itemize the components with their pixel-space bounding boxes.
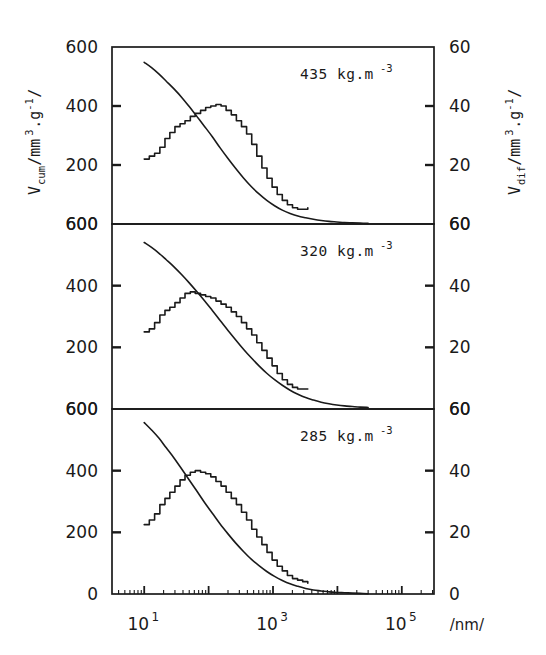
differential-curve: [144, 292, 308, 389]
differential-curve: [144, 471, 308, 584]
cumulative-curve: [144, 243, 368, 408]
left-tick-label: 600: [66, 37, 98, 57]
right-tick-label: 20: [449, 155, 471, 175]
right-tick-label: 60: [449, 37, 471, 57]
left-tick-label: 400: [66, 276, 98, 296]
panel-frame: [112, 409, 434, 594]
right-axis-title: Vdif/mm3.g-1/: [503, 89, 527, 195]
right-tick-label: 60: [449, 399, 471, 419]
right-tick-label: 0: [449, 584, 460, 604]
left-tick-label: 400: [66, 461, 98, 481]
cumulative-curve: [144, 62, 368, 223]
density-annotation: 285 kg.m: [300, 428, 374, 444]
svg-text:/mm: /mm: [506, 139, 524, 166]
left-tick-label: 200: [66, 522, 98, 542]
density-annotation: 320 kg.m: [300, 243, 374, 259]
right-tick-label: 60: [449, 214, 471, 234]
right-tick-label: 40: [449, 461, 471, 481]
left-tick-label: 200: [66, 337, 98, 357]
left-tick-label: 600: [66, 399, 98, 419]
right-tick-label: 20: [449, 337, 471, 357]
x-tick-label: 10: [127, 614, 149, 634]
svg-text:dif: dif: [515, 166, 527, 185]
x-tick-exponent: 3: [280, 610, 288, 624]
density-annotation-exponent: -3: [380, 239, 393, 251]
density-annotation: 435 kg.m: [300, 66, 374, 82]
panel-285: [112, 409, 434, 594]
svg-text:.g: .g: [26, 111, 44, 129]
porosimetry-chart: 60040020060060402060435 kg.m-36004002006…: [0, 0, 546, 655]
density-annotation-exponent: -3: [380, 424, 393, 436]
right-tick-label: 40: [449, 96, 471, 116]
left-tick-label: 200: [66, 155, 98, 175]
x-tick-label: 10: [385, 614, 407, 634]
svg-text:-1: -1: [23, 98, 35, 111]
svg-text:/mm: /mm: [26, 139, 44, 166]
figure-root: 60040020060060402060435 kg.m-36004002006…: [0, 0, 546, 655]
x-axis-ticks: [119, 586, 433, 594]
left-tick-label: 600: [66, 214, 98, 234]
left-axis-title: Vcum/mm3.g-1/: [23, 89, 47, 195]
svg-text:3: 3: [23, 129, 35, 135]
x-axis-unit-label: /nm/: [450, 616, 485, 634]
svg-text:V: V: [506, 186, 524, 195]
svg-text:cum: cum: [35, 166, 47, 185]
left-tick-label: 0: [87, 584, 98, 604]
left-tick-label: 400: [66, 96, 98, 116]
svg-text:V: V: [26, 186, 44, 195]
svg-text:/: /: [506, 89, 524, 98]
x-tick-label: 10: [256, 614, 278, 634]
cumulative-curve: [144, 423, 368, 594]
density-annotation-exponent: -3: [380, 62, 393, 74]
panel-320: [112, 224, 434, 409]
svg-text:.g: .g: [506, 111, 524, 129]
x-tick-exponent: 1: [151, 610, 159, 624]
svg-text:3: 3: [503, 129, 515, 135]
svg-text:/: /: [26, 89, 44, 98]
right-tick-label: 20: [449, 522, 471, 542]
right-tick-label: 40: [449, 276, 471, 296]
x-tick-exponent: 5: [409, 610, 417, 624]
svg-text:-1: -1: [503, 98, 515, 111]
